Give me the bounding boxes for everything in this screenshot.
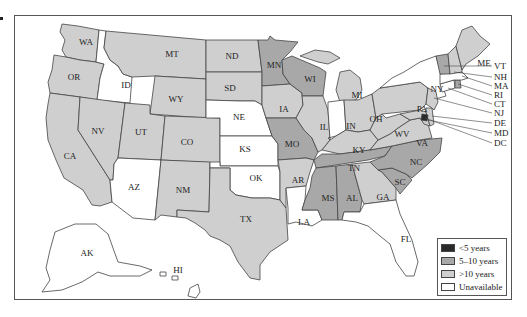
label-OH: OH bbox=[370, 114, 383, 124]
label-ND: ND bbox=[226, 51, 239, 61]
label-NY: NY bbox=[431, 84, 444, 94]
legend-item-lt5: <5 years bbox=[441, 241, 503, 254]
callout-NJ: NJ bbox=[494, 108, 504, 118]
legend-label: >10 years bbox=[459, 269, 494, 279]
label-NV: NV bbox=[92, 126, 105, 136]
callout-MD: MD bbox=[494, 128, 509, 138]
label-SD: SD bbox=[224, 83, 236, 93]
label-LA: LA bbox=[298, 217, 310, 227]
callout-VT: VT bbox=[494, 61, 506, 71]
legend-swatch-lt5 bbox=[441, 244, 455, 252]
label-CO: CO bbox=[181, 137, 194, 147]
label-NM: NM bbox=[176, 185, 191, 195]
label-OK: OK bbox=[250, 173, 263, 183]
legend-swatch-gt10 bbox=[441, 270, 455, 278]
legend: <5 years 5–10 years >10 years Unavailabl… bbox=[437, 238, 507, 296]
label-MN: MN bbox=[267, 60, 282, 70]
label-WA: WA bbox=[79, 37, 93, 47]
label-TN: TN bbox=[348, 163, 360, 173]
label-AL: AL bbox=[346, 193, 358, 203]
legend-label: <5 years bbox=[459, 243, 490, 253]
label-OR: OR bbox=[68, 72, 81, 82]
label-UT: UT bbox=[135, 127, 147, 137]
label-SC: SC bbox=[394, 177, 405, 187]
label-WV: WV bbox=[395, 129, 410, 139]
label-AR: AR bbox=[292, 175, 305, 185]
label-PA: PA bbox=[417, 104, 428, 114]
label-WI: WI bbox=[304, 74, 316, 84]
legend-swatch-unavailable bbox=[441, 283, 455, 291]
label-IL: IL bbox=[320, 122, 329, 132]
legend-item-unavailable: Unavailable bbox=[441, 280, 503, 293]
label-MO: MO bbox=[285, 139, 300, 149]
legend-swatch-5-10 bbox=[441, 257, 455, 265]
label-ID: ID bbox=[121, 80, 131, 90]
legend-item-5-10: 5–10 years bbox=[441, 254, 503, 267]
label-KY: KY bbox=[353, 145, 366, 155]
label-IA: IA bbox=[279, 104, 289, 114]
label-FL: FL bbox=[401, 234, 412, 244]
legend-item-gt10: >10 years bbox=[441, 267, 503, 280]
label-NE: NE bbox=[233, 112, 245, 122]
label-AK: AK bbox=[81, 248, 94, 258]
label-KS: KS bbox=[239, 144, 251, 154]
label-MT: MT bbox=[165, 49, 179, 59]
label-MI: MI bbox=[352, 90, 363, 100]
legend-label: 5–10 years bbox=[459, 256, 498, 266]
label-NC: NC bbox=[410, 157, 423, 167]
label-IN: IN bbox=[346, 121, 356, 131]
label-GA: GA bbox=[377, 192, 390, 202]
label-TX: TX bbox=[240, 214, 252, 224]
label-MS: MS bbox=[321, 193, 334, 203]
label-CA: CA bbox=[64, 151, 77, 161]
label-ME: ME bbox=[477, 58, 491, 68]
label-VA: VA bbox=[416, 138, 428, 148]
label-HI: HI bbox=[173, 265, 183, 275]
label-AZ: AZ bbox=[128, 182, 140, 192]
label-WY: WY bbox=[169, 94, 184, 104]
callout-DE: DE bbox=[494, 118, 506, 128]
callout-DC: DC bbox=[494, 138, 507, 148]
legend-label: Unavailable bbox=[459, 282, 502, 292]
